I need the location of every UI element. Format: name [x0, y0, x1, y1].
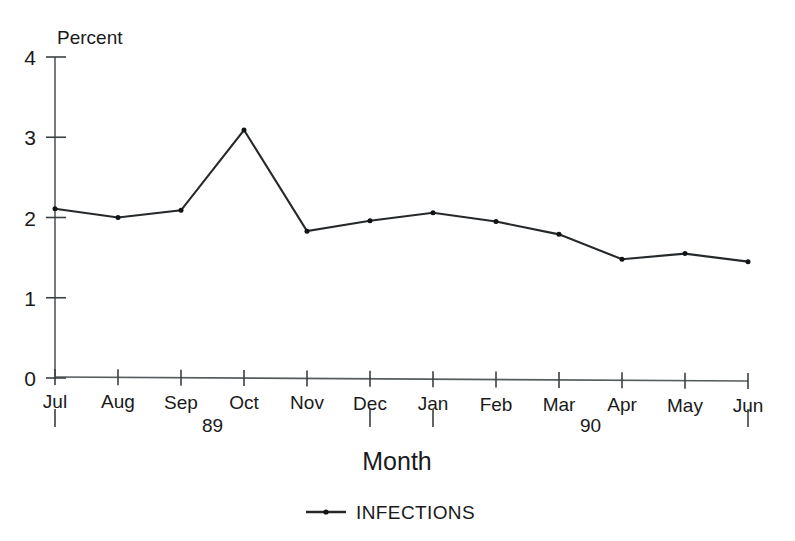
data-point	[431, 210, 436, 215]
data-point	[179, 208, 184, 213]
series-layer	[53, 128, 751, 265]
data-point	[242, 128, 247, 133]
x-tick-label-mar: Mar	[543, 394, 576, 415]
y-axis-title: Percent	[57, 27, 123, 48]
x-tick-label-oct: Oct	[229, 392, 259, 413]
y-tick-label-2: 2	[24, 207, 36, 230]
y-tick-label-0: 0	[24, 367, 36, 390]
data-point	[368, 218, 373, 223]
x-tick-label-feb: Feb	[480, 394, 513, 415]
data-point	[53, 206, 58, 211]
legend-dot-marker	[323, 509, 328, 514]
series-line-0	[55, 130, 748, 262]
legend-entry-label: INFECTIONS	[356, 502, 475, 523]
data-point	[116, 215, 121, 220]
y-axis-ticks	[46, 57, 66, 378]
data-point	[746, 259, 751, 264]
data-point	[494, 219, 499, 224]
x-axis-line	[55, 377, 748, 381]
footer-credit	[497, 530, 795, 541]
x-tick-label-apr: Apr	[607, 394, 637, 415]
x-axis-group-labels: 8990	[202, 415, 601, 436]
data-point	[557, 232, 562, 237]
y-tick-label-4: 4	[24, 46, 36, 69]
y-tick-label-1: 1	[24, 287, 36, 310]
x-axis-title: Month	[362, 447, 431, 475]
chart-page: Percent 01234 JulAugSepOctNovDecJanFebMa…	[0, 0, 795, 541]
line-chart: Percent 01234 JulAugSepOctNovDecJanFebMa…	[0, 0, 795, 541]
data-point	[305, 229, 310, 234]
x-tick-label-sep: Sep	[164, 392, 198, 413]
y-tick-label-3: 3	[24, 126, 36, 149]
x-axis-group-brackets	[55, 409, 748, 427]
x-tick-label-jul: Jul	[43, 391, 67, 412]
data-point	[683, 251, 688, 256]
y-axis-tick-labels: 01234	[24, 46, 36, 390]
x-axis-tick-labels: JulAugSepOctNovDecJanFebMarAprMayJun	[43, 391, 763, 416]
x-tick-label-may: May	[667, 395, 703, 416]
x-tick-label-aug: Aug	[101, 391, 135, 412]
x-tick-label-nov: Nov	[290, 392, 324, 413]
group-label-89: 89	[202, 415, 223, 436]
data-point	[620, 257, 625, 262]
group-label-90: 90	[580, 415, 601, 436]
chart-legend: INFECTIONS	[306, 502, 475, 523]
